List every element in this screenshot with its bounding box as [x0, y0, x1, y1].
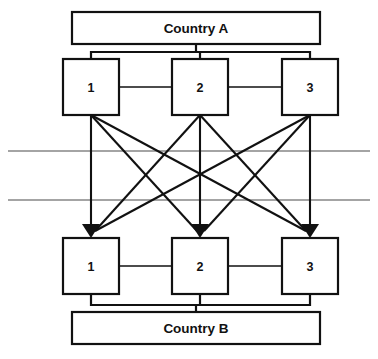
country-b-group: Country B	[72, 312, 320, 344]
arrowhead-b1	[82, 224, 100, 238]
country-a-label: Country A	[164, 21, 229, 36]
bottom-bracket	[91, 294, 310, 312]
cross-link-group	[91, 115, 310, 232]
top-node-3[interactable]: 3	[282, 59, 338, 115]
bottom-node-3[interactable]: 3	[282, 238, 338, 294]
cross-link-a2-b1	[95, 115, 200, 231]
top-node-2[interactable]: 2	[172, 59, 228, 115]
top-node-3-label: 3	[307, 81, 314, 95]
bottom-node-1[interactable]: 1	[63, 238, 119, 294]
arrowhead-b2	[191, 224, 209, 238]
network-diagram: Country A	[0, 0, 378, 359]
country-b-label: Country B	[163, 321, 228, 336]
top-node-2-label: 2	[197, 81, 204, 95]
country-a-group: Country A	[72, 12, 320, 44]
bottom-node-2[interactable]: 2	[172, 238, 228, 294]
top-node-1[interactable]: 1	[63, 59, 119, 115]
diagram-canvas: Country A	[0, 0, 378, 359]
arrowhead-b3	[301, 224, 319, 238]
bottom-node-3-label: 3	[307, 260, 314, 274]
top-node-1-label: 1	[88, 81, 95, 95]
bottom-node-2-label: 2	[197, 260, 204, 274]
cross-link-a1-b3	[91, 115, 306, 231]
arrowhead-group	[82, 224, 319, 238]
cross-link-a3-b2	[204, 115, 310, 231]
bottom-node-1-label: 1	[88, 260, 95, 274]
cross-link-a3-b1	[95, 115, 310, 231]
cross-link-a2-b3	[200, 115, 306, 231]
top-bracket	[91, 44, 310, 59]
cross-link-a1-b2	[91, 115, 197, 231]
